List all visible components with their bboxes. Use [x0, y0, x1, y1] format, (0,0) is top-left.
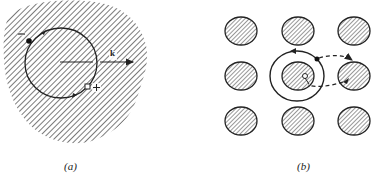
- panel-b: [225, 17, 370, 135]
- k-vector-label: k: [110, 48, 115, 58]
- panel-a: [4, 1, 147, 144]
- lattice-atoms: [225, 17, 370, 135]
- electron-dot: [315, 57, 320, 62]
- caption-b: (b): [297, 160, 310, 172]
- figure-canvas: [0, 0, 371, 178]
- positive-sign-icon: [92, 83, 101, 92]
- hopping-path: [319, 56, 352, 60]
- return-path: [308, 82, 343, 86]
- electron-dot: [26, 38, 32, 44]
- caption-a: (a): [64, 160, 77, 172]
- orbit-arrow-icon: [290, 48, 296, 54]
- hatched-medium: [4, 1, 147, 144]
- ion-marker: [303, 74, 308, 79]
- ion-square: [85, 84, 90, 89]
